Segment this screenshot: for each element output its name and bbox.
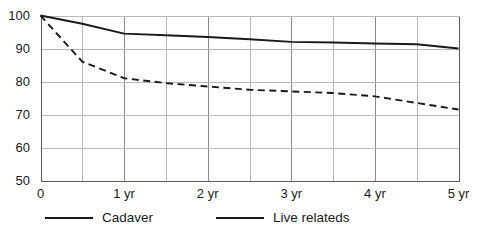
y-tick-label: 90 xyxy=(0,42,30,55)
survival-line-chart: 1009080706050 01 yr2 yr3 yr4 yr5 yr Cada… xyxy=(0,0,487,233)
y-tick-label: 70 xyxy=(0,108,30,121)
y-tick-label: 60 xyxy=(0,141,30,154)
y-tick-label: 80 xyxy=(0,75,30,88)
y-tick-label: 50 xyxy=(0,174,30,187)
data-series-lines xyxy=(41,16,459,110)
y-tick-label: 100 xyxy=(0,9,30,22)
x-tick-label: 3 yr xyxy=(266,187,316,200)
x-tick-label: 0 xyxy=(16,187,66,200)
x-tick-label: 2 yr xyxy=(183,187,233,200)
series-line-live-relateds xyxy=(41,16,459,49)
x-tick-label: 4 yr xyxy=(350,187,400,200)
legend-label-cadaver: Cadaver xyxy=(102,211,153,224)
legend-label-live-relateds: Live relateds xyxy=(273,211,350,224)
x-tick-label: 5 yr xyxy=(434,187,484,200)
chart-plot-area xyxy=(0,0,487,233)
x-tick-label: 1 yr xyxy=(99,187,149,200)
vertical-minor-gridlines xyxy=(83,16,418,181)
